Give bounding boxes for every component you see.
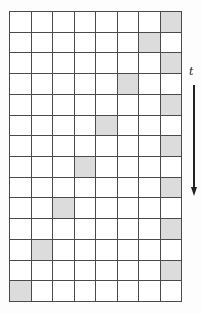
grid-cell — [96, 198, 117, 218]
grid-cell — [139, 198, 160, 218]
shaded-slot-cell — [161, 136, 182, 156]
grid-cell — [10, 95, 31, 115]
shaded-slot-cell — [10, 281, 31, 301]
grid-cell — [75, 178, 96, 198]
grid-cell — [32, 219, 53, 239]
grid-cell — [118, 219, 139, 239]
grid-cell — [118, 95, 139, 115]
grid-cell — [96, 281, 117, 301]
grid-cell — [53, 53, 74, 73]
grid-cell — [32, 136, 53, 156]
grid-cell — [75, 198, 96, 218]
grid-cell — [53, 178, 74, 198]
grid-cell — [96, 178, 117, 198]
grid-cell — [53, 136, 74, 156]
grid-cell — [10, 198, 31, 218]
shaded-slot-cell — [161, 12, 182, 32]
grid-cell — [118, 240, 139, 260]
grid-cell — [32, 12, 53, 32]
grid-cell — [32, 261, 53, 281]
grid-cell — [75, 281, 96, 301]
grid-cell — [118, 33, 139, 53]
grid-cell — [161, 157, 182, 177]
grid-cell — [96, 74, 117, 94]
grid-cell — [32, 116, 53, 136]
grid-cell — [139, 157, 160, 177]
grid-cell — [53, 12, 74, 32]
grid-cell — [96, 157, 117, 177]
grid-cell — [53, 281, 74, 301]
grid-cell — [118, 12, 139, 32]
grid-cell — [75, 95, 96, 115]
grid-cell — [53, 157, 74, 177]
grid-cell — [161, 240, 182, 260]
grid-cell — [53, 33, 74, 53]
grid-cell — [75, 53, 96, 73]
figure-canvas: t — [0, 0, 202, 314]
grid-cell — [118, 116, 139, 136]
grid-cell — [53, 95, 74, 115]
grid-cell — [32, 178, 53, 198]
grid-cell — [75, 12, 96, 32]
grid-cell — [32, 33, 53, 53]
grid-cell — [75, 116, 96, 136]
grid-cell — [161, 116, 182, 136]
grid-cell — [118, 198, 139, 218]
grid-cell — [118, 281, 139, 301]
shaded-slot-cell — [96, 116, 117, 136]
time-arrow — [193, 85, 195, 188]
grid-cell — [96, 240, 117, 260]
grid-cell — [10, 261, 31, 281]
grid-cell — [118, 53, 139, 73]
grid-cell — [53, 74, 74, 94]
grid-cell — [10, 53, 31, 73]
grid-cell — [10, 116, 31, 136]
grid-cell — [139, 95, 160, 115]
shaded-slot-cell — [75, 157, 96, 177]
grid-cell — [139, 136, 160, 156]
grid-cell — [96, 219, 117, 239]
grid-cell — [32, 281, 53, 301]
grid-cell — [96, 53, 117, 73]
grid-cell — [10, 178, 31, 198]
grid-cell — [10, 240, 31, 260]
grid-cell — [53, 219, 74, 239]
grid-cell — [10, 219, 31, 239]
grid-cell — [139, 178, 160, 198]
grid-cell — [161, 198, 182, 218]
grid-cell — [139, 281, 160, 301]
grid-cell — [96, 136, 117, 156]
time-axis-label: t — [189, 66, 193, 77]
grid-cell — [75, 219, 96, 239]
grid-cell — [139, 12, 160, 32]
slot-grid — [9, 11, 182, 302]
shaded-slot-cell — [161, 53, 182, 73]
grid-cell — [53, 261, 74, 281]
grid-cell — [161, 281, 182, 301]
grid-cell — [32, 95, 53, 115]
grid-cell — [139, 240, 160, 260]
grid-cell — [75, 33, 96, 53]
grid-cell — [139, 261, 160, 281]
shaded-slot-cell — [118, 74, 139, 94]
grid-cell — [118, 178, 139, 198]
grid-cell — [161, 74, 182, 94]
grid-cell — [75, 136, 96, 156]
grid-cell — [96, 95, 117, 115]
grid-cell — [96, 12, 117, 32]
grid-cell — [53, 116, 74, 136]
grid-cell — [32, 157, 53, 177]
shaded-slot-cell — [53, 198, 74, 218]
shaded-slot-cell — [32, 240, 53, 260]
grid-cell — [139, 74, 160, 94]
grid-cell — [10, 157, 31, 177]
grid-cell — [75, 261, 96, 281]
shaded-slot-cell — [161, 95, 182, 115]
grid-cell — [32, 198, 53, 218]
shaded-slot-cell — [139, 33, 160, 53]
shaded-slot-cell — [161, 219, 182, 239]
grid-cell — [96, 261, 117, 281]
shaded-slot-cell — [161, 178, 182, 198]
grid-cell — [118, 157, 139, 177]
grid-cell — [53, 240, 74, 260]
